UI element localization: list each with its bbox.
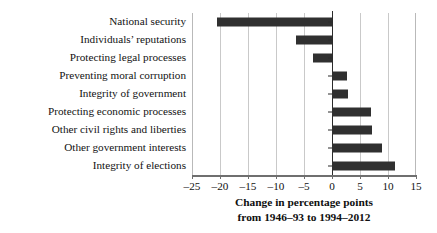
bar-row [192,121,416,139]
bar [332,108,371,117]
bar [217,18,332,27]
category-tickmark [328,148,332,149]
bar-row [192,49,416,67]
category-label: Preventing moral corruption [0,67,190,85]
bar [332,126,372,135]
x-axis-title: Change in percentage points from 1946–93… [192,195,416,224]
bar [296,36,332,45]
category-tickmark [328,94,332,95]
bar [332,144,382,153]
category-label: Protecting legal processes [0,49,190,67]
x-tick-label: 10 [382,179,393,193]
bar [332,162,395,171]
category-tickmark [328,22,332,23]
category-label: Integrity of government [0,85,190,103]
x-tick-label: –20 [212,179,229,193]
category-label: Individuals’ reputations [0,31,190,49]
x-axis-tick-labels: –25–20–15–10–5051015 [192,179,416,195]
x-axis-title-line-1: Change in percentage points [192,195,416,210]
x-tick-label: 5 [357,179,363,193]
bar-row [192,139,416,157]
x-tick-label: –25 [184,179,201,193]
bar-row [192,157,416,175]
category-label: Other civil rights and liberties [0,121,190,139]
bar-row [192,13,416,31]
category-tickmark [328,40,332,41]
category-tickmark [328,130,332,131]
bar-chart-figure: National securityIndividuals’ reputation… [0,0,437,233]
category-label: Integrity of elections [0,157,190,175]
x-tick-label: –5 [298,179,309,193]
category-label: Other government interests [0,139,190,157]
category-tickmark [328,112,332,113]
bar-row [192,103,416,121]
x-tick-label: –15 [240,179,257,193]
bar-row [192,31,416,49]
x-tick-label: 0 [329,179,335,193]
bar [332,72,347,81]
category-axis-labels: National securityIndividuals’ reputation… [0,13,190,175]
plot-area [192,13,416,175]
x-axis-title-line-2: from 1946–93 to 1994–2012 [192,210,416,225]
x-tick-label: 15 [410,179,421,193]
bar-row [192,67,416,85]
bar-row [192,85,416,103]
category-tickmark [328,58,332,59]
category-label: Protecting economic processes [0,103,190,121]
bar-series [192,13,416,175]
category-tickmark [328,166,332,167]
category-tickmark [328,76,332,77]
category-label: National security [0,13,190,31]
x-tick-label: –10 [268,179,285,193]
bar [332,90,348,99]
